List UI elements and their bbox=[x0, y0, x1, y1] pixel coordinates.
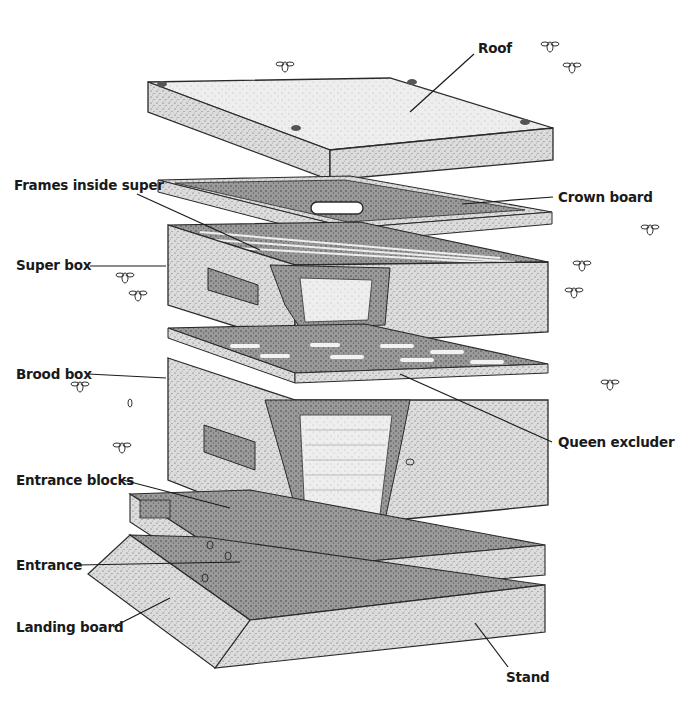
label-entrance: Entrance bbox=[16, 557, 82, 573]
beehive-diagram: Roof Crown board Frames inside super Sup… bbox=[0, 0, 696, 721]
label-frames-inside-super: Frames inside super bbox=[14, 177, 164, 193]
label-stand: Stand bbox=[506, 669, 550, 685]
label-roof: Roof bbox=[478, 40, 512, 56]
label-queen-excluder: Queen excluder bbox=[558, 434, 675, 450]
label-brood-box: Brood box bbox=[16, 366, 92, 382]
label-super-box: Super box bbox=[16, 257, 91, 273]
label-crown-board: Crown board bbox=[558, 189, 653, 205]
label-entrance-blocks: Entrance blocks bbox=[16, 472, 134, 488]
roof bbox=[148, 78, 553, 180]
label-landing-board: Landing board bbox=[16, 619, 123, 635]
